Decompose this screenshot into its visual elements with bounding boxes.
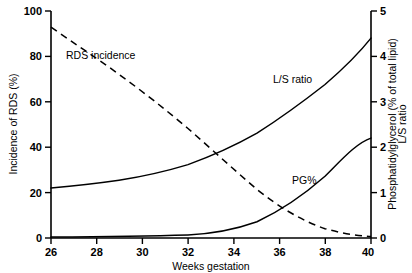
left-axis-tick-labels: 0 20 40 60 80 100	[24, 5, 42, 244]
x-tick-label-34: 34	[228, 246, 241, 258]
x-tick-label-32: 32	[182, 246, 194, 258]
x-tick-label-26: 26	[45, 246, 57, 258]
left-tick-label-80: 80	[30, 50, 42, 62]
left-tick-label-40: 40	[30, 141, 42, 153]
y-axis-title: Incidence of RDS (%)	[7, 74, 19, 175]
x-tick-label-38: 38	[319, 246, 331, 258]
left-tick-label-20: 20	[30, 187, 42, 199]
bottom-axis-tick-labels: 26 28 30 32 34 36 38 40	[45, 246, 374, 258]
x-tick-label-30: 30	[136, 246, 148, 258]
x-tick-label-28: 28	[91, 246, 103, 258]
left-tick-label-60: 60	[30, 96, 42, 108]
left-tick-label-0: 0	[36, 232, 42, 244]
y2-axis-title-secondary: L/S ratio	[396, 104, 408, 143]
series-label-rds-incidence: RDS incidence	[66, 49, 136, 61]
x-tick-label-36: 36	[273, 246, 285, 258]
left-tick-label-100: 100	[24, 5, 42, 17]
x-axis-title: Weeks gestation	[172, 260, 250, 272]
series-label-ls-ratio: L/S ratio	[273, 73, 312, 85]
bottom-axis-ticks	[51, 238, 371, 244]
chart-canvas: 0 20 40 60 80 100 0 1 2 3 4 5	[0, 0, 412, 273]
right-tick-label-0: 0	[380, 232, 386, 244]
series-label-pg-percent: PG%	[292, 174, 317, 186]
series-annotations: RDS incidence L/S ratio PG%	[66, 49, 317, 186]
left-axis-ticks	[45, 11, 51, 238]
chart-figure: 0 20 40 60 80 100 0 1 2 3 4 5	[0, 0, 412, 273]
x-tick-label-40: 40	[362, 246, 374, 258]
right-axis-ticks	[371, 11, 377, 238]
series-pg-percent-curve	[51, 138, 371, 237]
axis-spines	[51, 11, 371, 238]
right-tick-label-5: 5	[380, 5, 386, 17]
